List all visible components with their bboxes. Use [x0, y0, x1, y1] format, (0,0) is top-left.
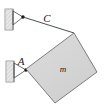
cable-label-c: C [43, 12, 51, 24]
top-wall-plate-tint [5, 9, 13, 30]
statics-figure: C A m [0, 0, 105, 111]
top-support-group [5, 9, 25, 30]
mass-label-m: m [60, 64, 67, 74]
top-pin-support-triangle [13, 11, 23, 25]
diagram-canvas: C A m [0, 0, 105, 111]
support-label-a: A [17, 55, 25, 67]
bottom-wall-plate-tint [6, 61, 14, 82]
